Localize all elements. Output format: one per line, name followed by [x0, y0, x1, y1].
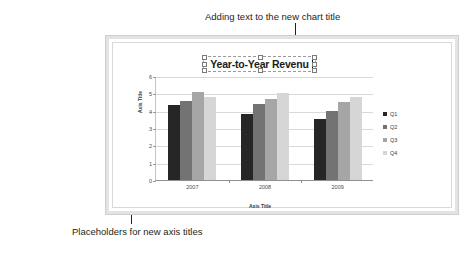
bar-q1-2007[interactable] [168, 105, 180, 180]
bar-group[interactable] [241, 93, 289, 180]
annotation-top-text: Adding text to the new chart title [205, 11, 340, 23]
legend-item-q1[interactable]: Q1 [383, 111, 397, 117]
x-axis-tick-label: 2007 [186, 184, 198, 190]
slide-inner-border: Year-to-Year Revenu Axis Title 012345620… [112, 42, 452, 208]
y-axis-tick-mark [153, 146, 156, 147]
x-axis-tick-label: 2009 [332, 184, 344, 190]
bar-q2-2007[interactable] [180, 101, 192, 180]
legend-swatch-icon [383, 125, 387, 129]
chart-title-textbox[interactable]: Year-to-Year Revenu [203, 56, 316, 72]
legend-swatch-icon [383, 151, 387, 155]
y-axis-tick-mark [153, 94, 156, 95]
resize-handle-top-center[interactable] [258, 55, 263, 60]
resize-handle-top-left[interactable] [202, 55, 207, 60]
y-axis-title-placeholder[interactable]: Axis Title [137, 91, 143, 113]
y-axis-tick-mark [153, 112, 156, 113]
x-axis-separator [229, 180, 230, 183]
plot-canvas: 0123456200720082009 [155, 77, 373, 181]
chart-legend[interactable]: Q1Q2Q3Q4 [383, 111, 397, 156]
chart-object[interactable]: Year-to-Year Revenu Axis Title 012345620… [121, 51, 443, 199]
resize-handle-middle-left[interactable] [202, 62, 207, 67]
resize-handle-middle-right[interactable] [312, 62, 317, 67]
y-axis-tick-label: 2 [149, 143, 152, 149]
legend-label: Q3 [390, 137, 397, 143]
y-axis-tick-label: 3 [149, 126, 152, 132]
legend-swatch-icon [383, 138, 387, 142]
x-axis-separator [301, 180, 302, 183]
bar-q4-2007[interactable] [204, 97, 216, 180]
y-axis-tick-mark [153, 164, 156, 165]
legend-swatch-icon [383, 112, 387, 116]
bar-q4-2009[interactable] [350, 97, 362, 180]
slide-frame: Year-to-Year Revenu Axis Title 012345620… [106, 36, 458, 214]
bar-q1-2008[interactable] [241, 114, 253, 180]
y-axis-tick-label: 0 [149, 178, 152, 184]
bar-q3-2007[interactable] [192, 92, 204, 180]
legend-label: Q1 [390, 111, 397, 117]
bar-group[interactable] [314, 97, 362, 180]
resize-handle-bottom-center[interactable] [258, 68, 263, 73]
bar-q2-2008[interactable] [253, 104, 265, 180]
bar-q1-2009[interactable] [314, 119, 326, 180]
resize-handle-top-right[interactable] [312, 55, 317, 60]
plot-area: 0123456200720082009 [155, 77, 373, 181]
y-axis-tick-mark [153, 129, 156, 130]
legend-label: Q4 [390, 150, 397, 156]
y-axis-tick-label: 4 [149, 109, 152, 115]
legend-item-q2[interactable]: Q2 [383, 124, 397, 130]
annotation-bottom-text: Placeholders for new axis titles [72, 226, 202, 238]
resize-handle-bottom-left[interactable] [202, 68, 207, 73]
y-axis-tick-mark [153, 77, 156, 78]
x-axis-title-placeholder[interactable]: Axis Title [249, 203, 271, 209]
y-axis-tick-label: 5 [149, 91, 152, 97]
y-axis-tick-mark [153, 181, 156, 182]
bar-q4-2008[interactable] [277, 93, 289, 180]
legend-item-q3[interactable]: Q3 [383, 137, 397, 143]
legend-label: Q2 [390, 124, 397, 130]
x-axis-tick-label: 2008 [259, 184, 271, 190]
bar-q3-2009[interactable] [338, 102, 350, 180]
y-axis-tick-label: 6 [149, 74, 152, 80]
resize-handle-bottom-right[interactable] [312, 68, 317, 73]
y-axis-tick-label: 1 [149, 161, 152, 167]
screenshot-root: Adding text to the new chart title Place… [0, 0, 476, 253]
bar-q3-2008[interactable] [265, 99, 277, 180]
bar-group[interactable] [168, 92, 216, 180]
gridline [156, 77, 373, 78]
bar-q2-2009[interactable] [326, 111, 338, 180]
legend-item-q4[interactable]: Q4 [383, 150, 397, 156]
